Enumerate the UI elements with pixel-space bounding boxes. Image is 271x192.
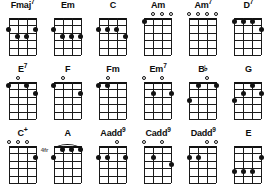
fret-line xyxy=(234,33,261,34)
fret-line xyxy=(234,97,261,98)
fretboard-diagram xyxy=(186,139,220,189)
fret-line xyxy=(54,48,81,49)
chord-diagram-a: A4fr xyxy=(45,128,90,192)
chord-name-label: Em xyxy=(61,0,75,11)
open-string-circle xyxy=(106,76,110,80)
fret-line xyxy=(99,40,126,41)
string-line xyxy=(153,18,154,55)
fretboard-diagram xyxy=(96,75,130,125)
string-line xyxy=(207,146,208,183)
fret-line xyxy=(189,89,216,90)
finger-dot xyxy=(123,155,128,160)
fretboard-diagram xyxy=(231,11,265,61)
fret-line xyxy=(189,176,216,177)
fret-line xyxy=(189,104,216,105)
fret-line xyxy=(144,104,171,105)
fretboard-diagram xyxy=(51,75,85,125)
fret-line xyxy=(144,25,171,26)
open-strings-row xyxy=(186,11,220,17)
fret-line xyxy=(9,25,36,26)
chord-diagram-dadd9: Dadd9 xyxy=(181,128,226,192)
fretboard-diagram xyxy=(231,75,265,125)
fret-line xyxy=(54,168,81,169)
finger-dot xyxy=(33,155,38,160)
fret-line xyxy=(9,104,36,105)
fret-line xyxy=(99,112,126,113)
fret-line xyxy=(99,161,126,162)
fret-line xyxy=(189,119,216,120)
fret-grid xyxy=(189,82,216,119)
finger-dot xyxy=(232,98,237,103)
open-strings-row xyxy=(141,11,175,17)
chord-name-label: F xyxy=(65,64,70,75)
chord-superscript: 7 xyxy=(209,0,212,5)
fretboard-diagram: 4fr xyxy=(51,139,85,189)
fret-line xyxy=(144,176,171,177)
fret-line xyxy=(144,161,171,162)
fret-line xyxy=(54,104,81,105)
finger-dot xyxy=(78,147,83,152)
finger-dot xyxy=(196,83,201,88)
nut-line xyxy=(9,18,36,20)
fret-line xyxy=(99,25,126,26)
fret-line xyxy=(99,176,126,177)
nut-line xyxy=(54,82,81,84)
chord-diagram-c-: C+ xyxy=(0,128,45,192)
fret-line xyxy=(54,112,81,113)
string-line xyxy=(162,146,163,183)
open-strings-row xyxy=(231,139,265,145)
string-line xyxy=(261,146,262,183)
string-line xyxy=(144,82,145,119)
string-line xyxy=(117,146,118,183)
chord-name-label: C+ xyxy=(17,128,27,139)
fret-line xyxy=(144,97,171,98)
finger-dot xyxy=(259,27,264,32)
finger-dot xyxy=(214,83,219,88)
fret-line xyxy=(99,33,126,34)
fret-line xyxy=(99,97,126,98)
string-line xyxy=(144,146,145,183)
fret-line xyxy=(54,176,81,177)
fretboard-diagram xyxy=(141,139,175,189)
nut-line xyxy=(189,82,216,84)
string-line xyxy=(162,82,163,119)
finger-dot xyxy=(33,91,38,96)
fret-line xyxy=(144,33,171,34)
open-string-circle xyxy=(205,12,209,16)
fret-line xyxy=(54,89,81,90)
chord-diagram-em7: Em7 xyxy=(135,64,180,128)
open-string-circle xyxy=(196,12,200,16)
fret-line xyxy=(54,55,81,56)
string-line xyxy=(54,18,55,55)
fret-line xyxy=(54,119,81,120)
chord-name-label: Em7 xyxy=(150,64,167,75)
finger-dot xyxy=(51,27,56,32)
string-line xyxy=(261,18,262,55)
string-line xyxy=(216,18,217,55)
string-line xyxy=(252,146,253,183)
fret-line xyxy=(9,33,36,34)
open-string-circle xyxy=(160,140,164,144)
fret-grid xyxy=(9,82,36,119)
string-line xyxy=(207,18,208,55)
fretboard-diagram xyxy=(141,75,175,125)
fret-line xyxy=(234,161,261,162)
finger-dot xyxy=(196,155,201,160)
string-line xyxy=(153,146,154,183)
string-line xyxy=(108,18,109,55)
fret-line xyxy=(9,89,36,90)
chord-name-label: Aadd9 xyxy=(100,128,125,139)
fret-line xyxy=(9,119,36,120)
chord-diagram-fmaj7: Fmaj7 xyxy=(0,0,45,64)
fret-line xyxy=(99,89,126,90)
string-line xyxy=(9,18,10,55)
finger-dot xyxy=(142,19,147,24)
open-strings-row xyxy=(231,11,265,17)
chord-name-label: D7 xyxy=(243,0,253,11)
chord-name-label: E xyxy=(245,128,251,139)
string-line xyxy=(198,18,199,55)
string-line xyxy=(36,146,37,183)
fretboard-diagram xyxy=(6,139,40,189)
fret-line xyxy=(54,40,81,41)
string-line xyxy=(54,146,55,183)
